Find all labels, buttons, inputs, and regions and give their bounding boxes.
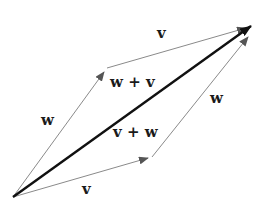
label-w-plus-v: w + v — [110, 75, 155, 90]
label-w-right: w — [210, 91, 223, 106]
vector-v-top-arrow — [107, 28, 246, 68]
vector-v-bottom-arrow — [13, 158, 148, 197]
vector-w-right-arrow — [152, 37, 248, 157]
label-v-top: v — [157, 26, 166, 41]
vector-w-left-arrow — [13, 72, 104, 197]
vector-parallelogram-diagram — [0, 0, 266, 216]
label-v-bottom: v — [82, 182, 91, 197]
label-w-left: w — [41, 113, 54, 128]
label-v-plus-w: v + w — [113, 125, 158, 140]
